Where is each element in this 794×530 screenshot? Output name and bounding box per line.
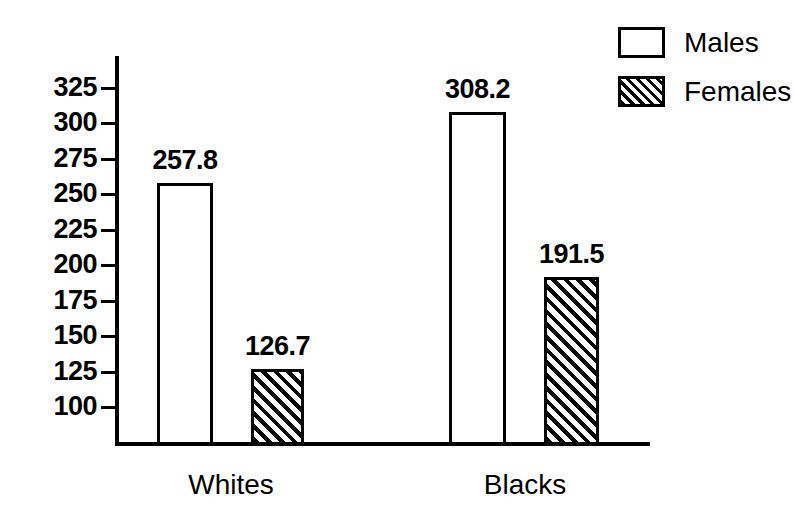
- y-tick-label: 150: [0, 322, 97, 350]
- bar-value-label: 257.8: [125, 147, 245, 174]
- y-tick-label: 250: [0, 180, 97, 208]
- bar-whites-females[interactable]: [251, 369, 304, 445]
- bar-value-label: 308.2: [418, 76, 538, 103]
- legend-swatch-females: [618, 76, 665, 107]
- y-tick-label: 300: [0, 109, 97, 137]
- legend-item-females[interactable]: Females: [618, 67, 791, 116]
- y-tick-label: 325: [0, 74, 97, 102]
- y-tick-mark: [101, 158, 116, 161]
- category-label-whites: Whites: [131, 471, 331, 499]
- y-tick-label-text: 100: [0, 393, 97, 420]
- y-tick-label-text: 125: [0, 358, 97, 385]
- y-tick-mark: [101, 371, 116, 374]
- y-tick-label: 225: [0, 216, 97, 244]
- bar-blacks-males[interactable]: [449, 112, 506, 445]
- y-axis-line: [115, 56, 119, 446]
- legend-item-males[interactable]: Males: [618, 18, 791, 67]
- legend-label-text: Males: [684, 29, 759, 57]
- y-tick-mark: [101, 122, 116, 125]
- y-tick-label-text: 175: [0, 287, 97, 314]
- bar-value-label: 126.7: [218, 333, 338, 360]
- y-tick-label: 200: [0, 251, 97, 279]
- y-tick-label: 100: [0, 393, 97, 421]
- chart-legend: MalesFemales: [618, 18, 791, 116]
- y-tick-mark: [101, 193, 116, 196]
- y-tick-label-text: 150: [0, 322, 97, 349]
- y-tick-mark: [101, 406, 116, 409]
- y-tick-label-text: 275: [0, 145, 97, 172]
- y-tick-label: 275: [0, 145, 97, 173]
- y-tick-mark: [101, 264, 116, 267]
- y-tick-mark: [101, 229, 116, 232]
- y-tick-label: 125: [0, 358, 97, 386]
- bar-whites-males[interactable]: [157, 183, 213, 445]
- y-tick-mark: [101, 87, 116, 90]
- y-tick-label: 175: [0, 287, 97, 315]
- legend-swatch-males: [618, 27, 665, 58]
- y-tick-mark: [101, 300, 116, 303]
- y-tick-label-text: 300: [0, 109, 97, 136]
- bar-chart: 325300275250225200175150125100 257.8126.…: [0, 0, 794, 530]
- bar-value-label: 191.5: [512, 241, 632, 268]
- bar-blacks-females[interactable]: [544, 277, 599, 445]
- y-tick-label-text: 250: [0, 180, 97, 207]
- legend-label-text: Females: [684, 78, 791, 106]
- y-tick-label-text: 325: [0, 74, 97, 101]
- y-tick-label-text: 225: [0, 216, 97, 243]
- category-label-blacks: Blacks: [425, 471, 625, 499]
- y-tick-mark: [101, 335, 116, 338]
- y-tick-label-text: 200: [0, 251, 97, 278]
